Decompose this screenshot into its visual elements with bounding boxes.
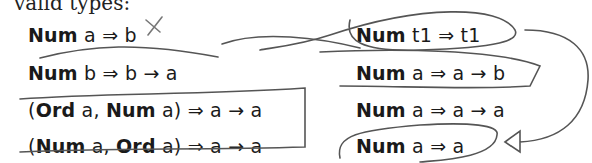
arrow-pointing-icon — [505, 30, 588, 152]
swoosh-stroke — [222, 36, 360, 48]
type-row-left-3: (Ord a, Num a) ⇒ a → a — [28, 99, 262, 121]
type-row-left-4: (Num a, Ord a) ⇒ a → a — [28, 135, 262, 157]
x-mark-icon — [146, 17, 162, 35]
type-row-right-4: Num a ⇒ a — [356, 135, 464, 157]
type-row-right-2: Num a ⇒ a → b — [356, 62, 505, 84]
underline-stroke — [40, 47, 218, 58]
type-row-left-1: Num a ⇒ b — [28, 24, 137, 46]
heading: valid types: — [14, 0, 130, 15]
type-row-right-1: Num t1 ⇒ t1 — [356, 24, 481, 46]
type-row-left-2: Num b ⇒ b → a — [28, 62, 178, 84]
type-row-right-3: Num a ⇒ a → a — [356, 99, 505, 121]
